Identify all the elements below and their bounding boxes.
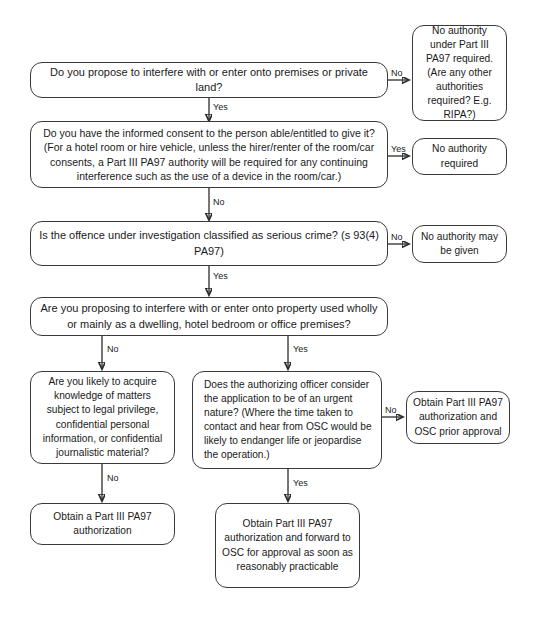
edge-label-q6-no: No [385, 406, 397, 415]
node-q2[interactable]: Do you have the informed consent to the … [30, 121, 388, 188]
edge-label-q2-yes: Yes [391, 145, 406, 154]
node-r3[interactable]: No authority may be given [412, 225, 507, 263]
node-r2[interactable]: No authority required [412, 138, 507, 175]
node-q3[interactable]: Is the offence under investigation class… [30, 221, 388, 266]
flowchart-canvas: Do you propose to interfere with or ente… [0, 0, 539, 625]
edge-label-q6-yes: Yes [293, 479, 308, 488]
edge-label-q2-no: No [213, 198, 225, 207]
node-r6[interactable]: Obtain Part III PA97 authorization and f… [215, 503, 360, 588]
node-q4[interactable]: Are you proposing to interfere with or e… [30, 297, 388, 336]
node-r5[interactable]: Obtain a Part III PA97 authorization [30, 503, 175, 545]
edge-label-q1-no: No [391, 69, 403, 78]
node-r4[interactable]: Obtain Part III PA97 authorization and O… [406, 391, 510, 444]
node-q5[interactable]: Are you likely to acquire knowledge of m… [30, 371, 175, 464]
edge-label-q3-no: No [391, 233, 403, 242]
edge-label-q4-yes: Yes [293, 345, 308, 354]
node-r1[interactable]: No authority under Part III PA97 require… [412, 25, 507, 121]
edge-label-q4-no: No [107, 345, 119, 354]
node-q1[interactable]: Do you propose to interfere with or ente… [30, 62, 388, 98]
node-q6[interactable]: Does the authorizing officer consider th… [192, 371, 382, 469]
edge-label-q1-yes: Yes [213, 103, 228, 112]
edge-label-q3-yes: Yes [213, 272, 228, 281]
edge-label-q5-no: No [107, 474, 119, 483]
